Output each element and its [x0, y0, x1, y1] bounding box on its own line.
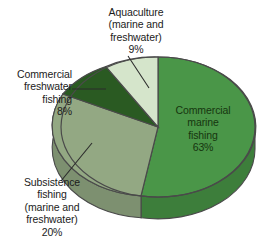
slice-label-commercial-freshwater: Commercial freshwater fishing 8%	[2, 68, 72, 118]
slice-label-subsistence: Subsistence fishing (marine and freshwat…	[0, 176, 104, 238]
slice-label-commercial-marine: Commercial marine fishing 63%	[166, 104, 240, 154]
pie-chart-figure: Aquaculture (marine and freshwater) 9% C…	[0, 0, 274, 249]
slice-label-aquaculture: Aquaculture (marine and freshwater) 9%	[82, 6, 190, 56]
